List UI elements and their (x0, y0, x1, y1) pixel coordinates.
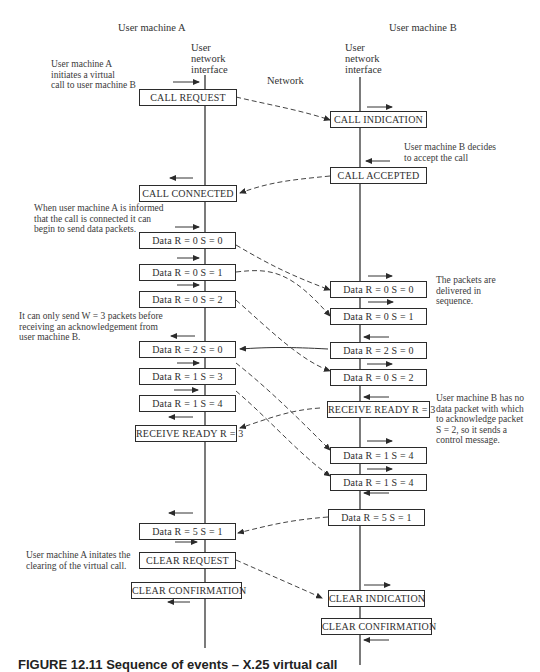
a-call-connected: CALL CONNECTED (139, 185, 237, 202)
b-call-accepted: CALL ACCEPTED (330, 167, 427, 184)
b-data-r0-s1: Data R = 0 S = 1 (330, 308, 427, 325)
a-data-r0-s2: Data R = 0 S = 2 (139, 291, 236, 308)
b-data-r1-s4-first: Data R = 1 S = 4 (330, 447, 427, 464)
b-data-r0-s0: Data R = 0 S = 0 (330, 281, 427, 298)
a-clear-confirmation: CLEAR CONFIRMATION (131, 582, 242, 599)
a-receive-ready-r3: RECEIVE READY R = 3 (135, 425, 237, 442)
a-data-r1-s3: Data R = 1 S = 3 (139, 368, 236, 385)
b-receive-ready-r3: RECEIVE READY R = 3 (327, 401, 430, 418)
a-call-request: CALL REQUEST (139, 89, 237, 106)
b-data-r0-s2: Data R = 0 S = 2 (330, 369, 427, 386)
b-call-indication: CALL INDICATION (330, 111, 427, 128)
a-data-r2-s0: Data R = 2 S = 0 (139, 341, 236, 358)
b-data-r5-s1: Data R = 5 S = 1 (328, 509, 425, 526)
figure-caption: FIGURE 12.11 Sequence of events – X.25 v… (18, 657, 337, 672)
a-data-r0-s0: Data R = 0 S = 0 (139, 232, 236, 249)
a-clear-request: CLEAR REQUEST (139, 552, 236, 569)
b-data-r2-s0: Data R = 2 S = 0 (330, 342, 427, 359)
b-clear-indication: CLEAR INDICATION (328, 590, 425, 607)
b-data-r1-s4-second: Data R = 1 S = 4 (330, 474, 427, 491)
b-clear-confirmation: CLEAR CONFIRMATION (321, 618, 432, 635)
a-data-r0-s1: Data R = 0 S = 1 (139, 264, 236, 281)
a-data-r1-s4: Data R = 1 S = 4 (139, 395, 236, 412)
a-data-r5-s1: Data R = 5 S = 1 (139, 523, 236, 540)
